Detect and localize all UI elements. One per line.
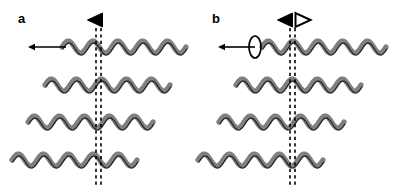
wave-row bbox=[28, 116, 154, 130]
filled-triangle-marker bbox=[278, 13, 293, 27]
diagram-content bbox=[12, 13, 387, 186]
arrow-head bbox=[28, 44, 35, 50]
panel-label-b: b bbox=[212, 12, 220, 25]
panel-a bbox=[12, 13, 187, 186]
figure-canvas: a b bbox=[0, 0, 394, 186]
panel-b bbox=[198, 13, 387, 186]
arrow-group bbox=[28, 44, 66, 50]
wave-diagram bbox=[0, 0, 394, 186]
filled-triangle-marker bbox=[88, 13, 103, 27]
wave-row bbox=[198, 154, 324, 168]
wave-row bbox=[45, 79, 171, 93]
open-triangle-marker bbox=[296, 13, 311, 27]
wave-row bbox=[262, 41, 387, 55]
wave-row bbox=[62, 41, 187, 55]
wave-row bbox=[236, 79, 362, 93]
panel-label-a: a bbox=[18, 12, 25, 25]
wave-row bbox=[12, 154, 138, 168]
arrow-head bbox=[218, 44, 225, 50]
wave-row bbox=[219, 116, 345, 130]
